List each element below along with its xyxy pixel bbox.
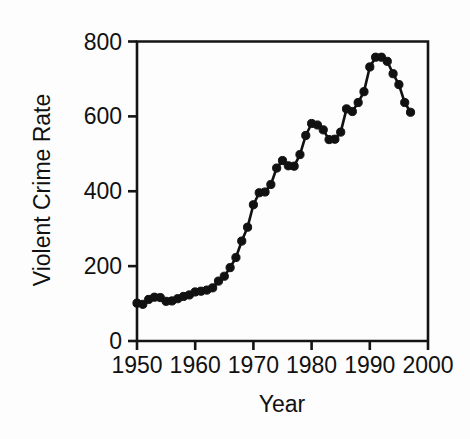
y-tick-label: 0 <box>109 328 122 354</box>
x-axis-tick-labels: 195019601970198019902000 <box>111 352 453 378</box>
data-point <box>395 80 403 88</box>
x-axis-ticks <box>137 341 428 350</box>
y-axis-title: Violent Crime Rate <box>29 94 55 287</box>
data-point <box>290 162 298 170</box>
y-tick-label: 200 <box>84 253 122 279</box>
x-tick-label: 1950 <box>111 352 162 378</box>
data-point <box>273 164 281 172</box>
data-point <box>319 126 327 134</box>
data-point <box>302 131 310 139</box>
x-tick-label: 1990 <box>344 352 395 378</box>
data-point <box>348 107 356 115</box>
data-point <box>337 128 345 136</box>
x-tick-label: 1970 <box>228 352 279 378</box>
y-tick-label: 800 <box>84 29 122 55</box>
y-axis-tick-labels: 0200400600800 <box>84 29 122 355</box>
data-point <box>331 135 339 143</box>
x-tick-label: 1960 <box>170 352 221 378</box>
data-point <box>220 272 228 280</box>
data-point <box>209 284 217 292</box>
chart-page: 0200400600800 195019601970198019902000 V… <box>0 0 470 439</box>
data-series-violent-crime-rate <box>133 53 415 308</box>
y-axis-ticks <box>128 42 137 342</box>
x-axis-title: Year <box>259 391 306 417</box>
data-point <box>238 237 246 245</box>
data-point <box>226 264 234 272</box>
data-point <box>406 108 414 116</box>
data-point <box>267 180 275 188</box>
x-tick-label: 1980 <box>286 352 337 378</box>
data-point <box>383 57 391 65</box>
data-point <box>366 63 374 71</box>
data-point <box>249 201 257 209</box>
data-point <box>296 150 304 158</box>
data-point <box>232 253 240 261</box>
data-point <box>261 188 269 196</box>
data-point <box>243 223 251 231</box>
data-point <box>354 98 362 106</box>
y-tick-label: 600 <box>84 103 122 129</box>
series-markers <box>133 53 415 308</box>
series-line-path <box>137 57 411 304</box>
y-tick-label: 400 <box>84 178 122 204</box>
data-point <box>360 88 368 96</box>
x-tick-label: 2000 <box>402 352 453 378</box>
data-point <box>389 70 397 78</box>
violent-crime-rate-line-chart: 0200400600800 195019601970198019902000 V… <box>0 0 470 439</box>
data-point <box>401 98 409 106</box>
